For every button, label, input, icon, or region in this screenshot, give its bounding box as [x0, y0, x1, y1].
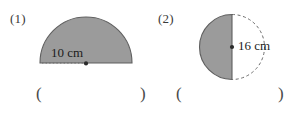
semicircle-up-svg — [40, 12, 148, 72]
center-point-dot — [230, 45, 234, 49]
dimension-label-16cm: 16 cm — [238, 39, 270, 52]
semicircle-left-svg — [186, 6, 246, 90]
figure-semicircle-1 — [40, 12, 148, 72]
problem-number-2: (2) — [158, 12, 174, 25]
figure-semicircle-2 — [186, 6, 246, 90]
answer-close-paren-2: ) — [278, 85, 284, 102]
problem-number-1: (1) — [10, 12, 26, 25]
worksheet-canvas: (1) 10 cm ( ) (2) 16 cm ( ) — [0, 0, 301, 117]
center-point-dot — [84, 61, 88, 65]
answer-open-paren-1: ( — [36, 85, 42, 102]
semicircle-shape — [200, 15, 233, 80]
dimension-label-10cm: 10 cm — [51, 46, 83, 59]
answer-open-paren-2: ( — [176, 85, 182, 102]
answer-close-paren-1: ) — [140, 85, 146, 102]
